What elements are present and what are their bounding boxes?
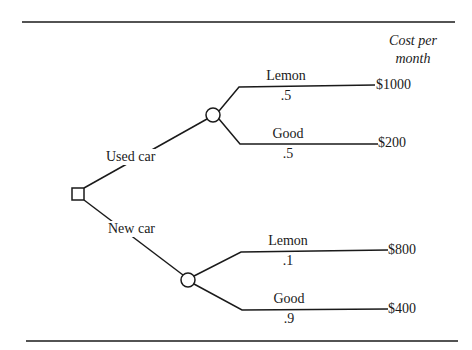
option-label-used-car: Used car xyxy=(105,149,156,165)
outcome-label-new-lemon: Lemon xyxy=(268,233,308,249)
chance-node-used-car xyxy=(206,108,220,122)
cost-used-good: $200 xyxy=(378,135,406,151)
outcome-label-new-good: Good xyxy=(273,291,304,307)
cost-column-header: Cost per month xyxy=(380,32,446,68)
branch-used-lemon xyxy=(219,85,375,111)
probability-used-good: .5 xyxy=(283,146,294,162)
chance-node-new-car xyxy=(181,273,195,287)
decision-node-square xyxy=(72,188,84,200)
cost-header-line1: Cost per xyxy=(380,32,446,50)
cost-used-lemon: $1000 xyxy=(376,77,411,93)
option-label-new-car: New car xyxy=(107,221,156,237)
cost-header-line2: month xyxy=(380,50,446,68)
probability-new-lemon: .1 xyxy=(283,253,294,269)
probability-new-good: .9 xyxy=(284,311,295,327)
outcome-label-used-good: Good xyxy=(272,126,303,142)
cost-new-lemon: $800 xyxy=(388,242,416,258)
outcome-label-used-lemon: Lemon xyxy=(266,68,306,84)
cost-new-good: $400 xyxy=(388,301,416,317)
probability-used-lemon: .5 xyxy=(281,88,292,104)
branch-new-car xyxy=(84,200,183,275)
